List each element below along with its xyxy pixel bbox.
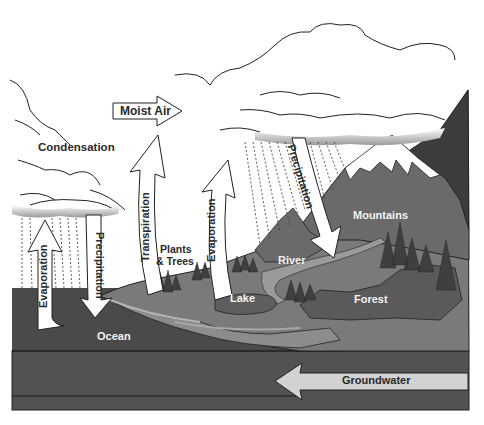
forest-label: Forest xyxy=(354,294,388,305)
river-label: River xyxy=(278,255,306,266)
plants-trees-label-line1: Plants xyxy=(160,244,192,255)
upper-cloud xyxy=(175,24,455,132)
left-cloud-base xyxy=(12,205,120,218)
water-cycle-diagram xyxy=(0,0,484,425)
moist-air-label: Moist Air xyxy=(120,105,171,117)
land xyxy=(100,90,469,351)
condensation-label: Condensation xyxy=(38,142,115,154)
ocean-label: Ocean xyxy=(97,331,131,342)
transpiration-label: Transpiration xyxy=(140,192,151,262)
precipitation-left-label: Precipitation xyxy=(94,232,105,299)
upper-cloud-base xyxy=(255,128,445,145)
evaporation-lake-label: Evaporation xyxy=(206,198,217,262)
evaporation-left-label: Evaporation xyxy=(38,244,49,308)
groundwater-label: Groundwater xyxy=(342,375,410,386)
mountains-label: Mountains xyxy=(353,210,408,221)
plants-trees-label-line2: & Trees xyxy=(156,256,194,267)
lake-label: Lake xyxy=(230,293,255,304)
